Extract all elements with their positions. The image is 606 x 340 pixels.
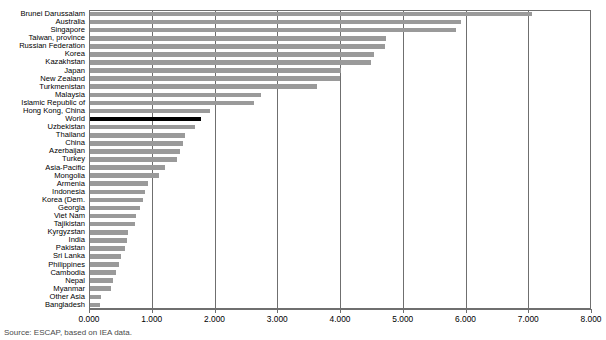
bar-row: Bangladesh	[0, 301, 601, 309]
x-tick-label: 7.000	[498, 314, 558, 324]
bar-rows: Brunei DarussalamAustraliaSingaporeTaiwa…	[0, 10, 601, 309]
bar	[90, 20, 461, 25]
bar	[90, 93, 261, 98]
x-tick-label: 2.000	[185, 314, 245, 324]
bar-row: Sri Lanka	[0, 252, 601, 260]
bar-row: World	[0, 115, 601, 123]
bar-row: Hong Kong, China	[0, 107, 601, 115]
bar-row: China	[0, 139, 601, 147]
x-tick-label: 8.000	[561, 314, 606, 324]
bar	[90, 165, 165, 170]
bar-row: Singapore	[0, 26, 601, 34]
x-tick	[466, 309, 467, 313]
x-tick-label: 0.000	[59, 314, 119, 324]
bar-row: Russian Federation	[0, 42, 601, 50]
bar	[90, 28, 456, 33]
x-tick	[152, 309, 153, 313]
bar-row: New Zealand	[0, 75, 601, 83]
x-tick	[215, 309, 216, 313]
bar	[90, 254, 121, 259]
bar	[90, 214, 136, 219]
bar	[90, 246, 125, 251]
bar-row: Cambodia	[0, 269, 601, 277]
bar-row: Indonesia	[0, 188, 601, 196]
x-tick-label: 4.000	[310, 314, 370, 324]
bar-row: India	[0, 236, 601, 244]
bar-row: Nepal	[0, 277, 601, 285]
bar-row: Pakistan	[0, 244, 601, 252]
bar	[90, 278, 113, 283]
bar	[90, 222, 135, 227]
bar	[90, 190, 145, 195]
bar	[90, 230, 128, 235]
bar	[90, 181, 148, 186]
bar-row: Brunei Darussalam	[0, 10, 601, 18]
bar	[90, 303, 100, 308]
bar-row: Uzbekistan	[0, 123, 601, 131]
bar-row: Viet Nam	[0, 212, 601, 220]
bar-row: Australia	[0, 18, 601, 26]
category-label: Bangladesh	[0, 301, 85, 309]
bar	[90, 52, 374, 57]
bar	[90, 149, 180, 154]
bar-row: Turkey	[0, 155, 601, 163]
x-tick-label: 5.000	[373, 314, 433, 324]
bar-row: Japan	[0, 67, 601, 75]
bar	[90, 109, 210, 114]
bar-row: Mongolia	[0, 172, 601, 180]
bar-row: Myanmar	[0, 285, 601, 293]
bar-row: Islamic Republic of	[0, 99, 601, 107]
bar	[90, 68, 341, 73]
bar	[90, 60, 371, 65]
bar-row: Kyrgyzstan	[0, 228, 601, 236]
bar-row: Other Asia	[0, 293, 601, 301]
bar-row: Malaysia	[0, 91, 601, 99]
bar	[90, 173, 159, 178]
bar	[90, 238, 127, 243]
bar	[90, 206, 140, 211]
bar	[90, 12, 532, 17]
bar-row: Asia-Pacific	[0, 164, 601, 172]
bar	[90, 76, 340, 81]
bar-row: Philippines	[0, 261, 601, 269]
bar	[90, 286, 111, 291]
x-tick-label: 1.000	[122, 314, 182, 324]
bar	[90, 270, 116, 275]
bar	[90, 117, 201, 122]
bar-row: Korea	[0, 50, 601, 58]
bar	[90, 262, 119, 267]
bar	[90, 84, 317, 89]
bar-row: Turkmenistan	[0, 83, 601, 91]
bar-row: Korea (Dem.	[0, 196, 601, 204]
bar-row: Kazakhstan	[0, 58, 601, 66]
bar-row: Tajikistan	[0, 220, 601, 228]
bar-row: Azerbaijan	[0, 147, 601, 155]
x-tick	[89, 309, 90, 313]
bar	[90, 157, 177, 162]
x-tick	[591, 309, 592, 313]
bar	[90, 125, 195, 130]
x-tick	[403, 309, 404, 313]
bar-row: Armenia	[0, 180, 601, 188]
bar	[90, 141, 183, 146]
bar-row: Taiwan, province	[0, 34, 601, 42]
bar-row: Georgia	[0, 204, 601, 212]
bar	[90, 44, 385, 49]
bar	[90, 36, 386, 41]
bar	[90, 101, 254, 106]
bar-row: Thailand	[0, 131, 601, 139]
x-tick	[528, 309, 529, 313]
bar	[90, 198, 143, 203]
source-note: Source: ESCAP, based on IEA data.	[4, 328, 132, 337]
x-tick-label: 6.000	[436, 314, 496, 324]
x-tick	[340, 309, 341, 313]
bar	[90, 295, 101, 300]
bar	[90, 133, 185, 138]
x-tick	[277, 309, 278, 313]
x-tick-label: 3.000	[247, 314, 307, 324]
